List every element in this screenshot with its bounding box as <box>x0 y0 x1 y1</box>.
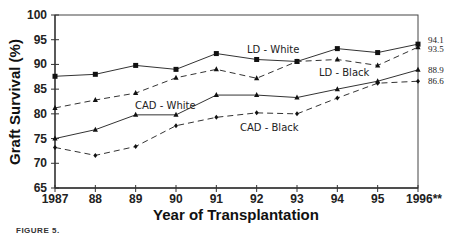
series-name-label: CAD - Black <box>240 122 299 133</box>
series-name-label: LD - White <box>247 44 299 55</box>
series-cad-black <box>53 79 420 158</box>
diamond-marker <box>53 145 57 150</box>
square-marker <box>375 50 380 55</box>
series-lines <box>52 42 420 158</box>
y-tick-label: 100 <box>27 8 47 22</box>
diamond-marker <box>335 96 339 101</box>
x-tick-label: 88 <box>89 192 103 206</box>
axes: 6570758085909510019878889909192939495199… <box>27 8 442 206</box>
x-axis-title: Year of Transplantation <box>153 206 319 223</box>
diamond-marker <box>255 110 259 115</box>
diamond-marker <box>416 79 420 84</box>
diamond-marker <box>134 144 138 149</box>
figure-caption: FIGURE 5. <box>16 226 60 234</box>
square-marker <box>254 57 259 62</box>
y-tick-label: 75 <box>34 132 48 146</box>
triangle-marker <box>214 66 219 71</box>
x-tick-label: 1987 <box>42 192 69 206</box>
triangle-marker <box>173 75 178 80</box>
square-marker <box>335 46 340 51</box>
square-marker <box>133 63 138 68</box>
diamond-marker <box>214 115 218 120</box>
y-tick-label: 80 <box>34 107 48 121</box>
end-value-label: 88.9 <box>428 65 444 75</box>
square-marker <box>174 67 179 72</box>
series-line <box>55 81 418 155</box>
diamond-marker <box>174 123 178 128</box>
diamond-marker <box>93 153 97 158</box>
x-tick-label: 93 <box>290 192 304 206</box>
end-value-label: 93.5 <box>428 44 444 54</box>
triangle-marker <box>335 56 340 61</box>
triangle-marker <box>415 67 420 72</box>
x-tick-label: 1996** <box>406 192 442 206</box>
series-labels: 94.193.588.986.6LD - WhiteLD - BlackCAD … <box>135 35 444 133</box>
y-tick-label: 85 <box>34 82 48 96</box>
square-marker <box>214 51 219 56</box>
y-tick-label: 70 <box>34 156 48 170</box>
diamond-marker <box>295 111 299 116</box>
y-tick-label: 90 <box>34 57 48 71</box>
series-line <box>55 70 418 139</box>
y-tick-label: 95 <box>34 33 48 47</box>
x-tick-label: 91 <box>210 192 224 206</box>
x-tick-label: 95 <box>371 192 385 206</box>
series-name-label: LD - Black <box>319 67 370 78</box>
x-tick-label: 89 <box>129 192 143 206</box>
plot-frame <box>55 15 418 188</box>
end-value-label: 86.6 <box>428 76 444 86</box>
x-tick-label: 92 <box>250 192 264 206</box>
line-chart: 6570758085909510019878889909192939495199… <box>0 0 458 234</box>
series-name-label: CAD - White <box>135 100 196 111</box>
y-axis-title: Graft Survival (%) <box>6 39 23 165</box>
x-tick-label: 94 <box>331 192 345 206</box>
square-marker <box>93 72 98 77</box>
square-marker <box>53 74 58 79</box>
x-tick-label: 90 <box>169 192 183 206</box>
